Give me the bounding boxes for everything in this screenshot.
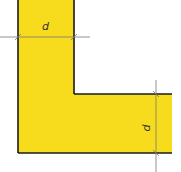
l-section-diagram: d d — [0, 0, 181, 172]
dimension-label-horizontal: d — [42, 20, 50, 33]
dimension-label-vertical: d — [140, 123, 153, 131]
